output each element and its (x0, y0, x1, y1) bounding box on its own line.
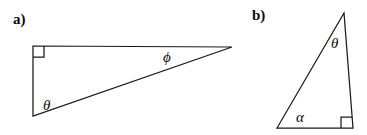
triangle-a-outline (33, 46, 232, 116)
figure-container: a) b) θ ϕ θ α (0, 0, 367, 135)
angle-label-theta-a: θ (43, 98, 50, 113)
triangle-a-group (33, 46, 232, 116)
angle-label-phi-a: ϕ (163, 50, 171, 65)
triangle-b-right-angle-marker (341, 117, 352, 128)
angle-label-alpha-b: α (296, 110, 304, 125)
triangle-b-outline (277, 13, 353, 128)
geometry-diagram-svg (0, 0, 367, 135)
panel-b-label: b) (252, 8, 265, 23)
angle-label-theta-b: θ (331, 36, 338, 51)
triangle-b-group (277, 13, 353, 128)
panel-a-label: a) (13, 12, 26, 27)
triangle-a-right-angle-marker (33, 46, 44, 57)
